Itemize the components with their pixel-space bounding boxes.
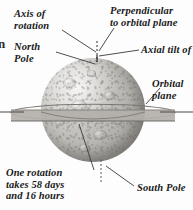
label-axis-of-rotation: Axis of rotation [14,8,49,31]
leader-perpendicular [99,28,114,51]
clipped-edge-text: n [0,36,5,52]
label-south-pole: South Pole [137,182,186,194]
label-north-pole: North Pole [14,41,40,64]
orbital-plane-band-back [0,103,193,122]
label-perpendicular-to-orbital-plane: Perpendicular to orbital plane [110,5,178,28]
leader-axial-tilt [99,50,139,56]
leader-axis-of-rotation [62,30,96,52]
leader-south-pole [106,166,134,186]
label-rotation-period: One rotation takes 58 days and 16 hours [6,167,64,202]
label-axial-tilt: Axial tilt of 2° [141,44,193,56]
label-orbital-plane: Orbital plane [152,78,184,101]
mercury-axial-tilt-diagram: n [0,0,193,210]
